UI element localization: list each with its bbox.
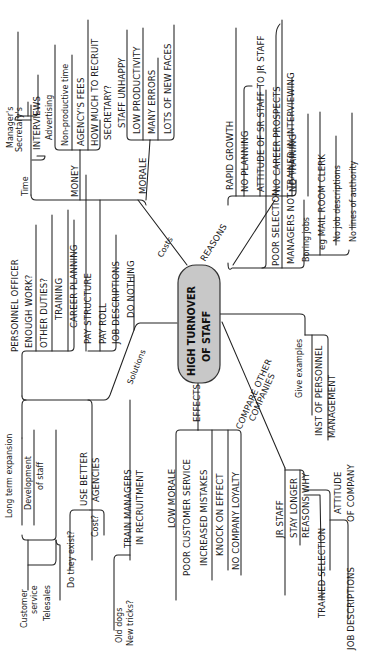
secretarys-label: Secretary's <box>15 107 24 152</box>
do-nothing-label: DO NOTHING <box>126 260 136 318</box>
trained-selection-label: TRAINED SELECTION <box>317 528 327 619</box>
career-planning-label: CAREER PLANNING <box>69 245 79 328</box>
telesales-label: Telesales <box>43 585 52 622</box>
low-morale-label: LOW MORALE <box>167 469 177 528</box>
pay-roll-label: PAY ROLL <box>98 303 108 344</box>
no-job-descriptions-label: No job descriptions <box>333 165 342 242</box>
no-career-prospects-label: NO CAREER PROSPECTS <box>272 86 282 192</box>
stay-longer-label: STAY LONGER <box>289 478 299 538</box>
effects-label: EFFECTS <box>192 384 202 422</box>
use-better-label: USE BETTER <box>79 452 89 506</box>
low-productivity-label: LOW PRODUCTIVITY <box>132 46 142 134</box>
attitude-sr-staff-label: ATTITUDE OF SR STAFF TO JR STAFF <box>256 35 266 192</box>
staff-unhappy-label: STAFF UNHAPPY <box>117 57 127 128</box>
customer-label: Customer <box>20 588 29 628</box>
job-descriptions-label: JOB DESCRIPTIONS <box>111 261 121 345</box>
no-company-loyalty-label: NO COMPANY LOYALTY <box>231 471 241 570</box>
center-node: HIGH TURNOVER OF STAFF <box>178 265 220 383</box>
development-label: Development <box>24 456 33 510</box>
of-company-label: OF COMPANY <box>346 464 356 522</box>
agencies-label: AGENCIES <box>91 458 101 502</box>
boring-jobs-label: Boring jobs <box>302 217 311 262</box>
non-productive-time-label: Non-productive time <box>61 64 70 146</box>
managers-not-trained-label: MANAGERS NOT TRAINED IN INTERVIEWING <box>286 72 296 264</box>
cost-question-label: Cost? <box>91 515 100 537</box>
jr-staff-label: JR STAFF <box>275 500 285 539</box>
other-duties-label: OTHER DUTIES? <box>39 278 49 348</box>
pay-structure-label: PAY STRUCTURE <box>83 273 93 344</box>
train-managers-label: TRAIN MANAGERS <box>123 469 133 549</box>
management-label: MANAGEMENT <box>327 374 337 438</box>
poor-customer-service-label: POOR CUSTOMER SERVICE <box>182 459 192 576</box>
interviews-label: INTERVIEWS <box>32 96 42 150</box>
rapid-growth-label: RAPID GROWTH <box>225 121 235 190</box>
old-dogs-label: Old dogs <box>115 608 124 643</box>
of-staff-label: of staff <box>36 462 45 490</box>
give-examples-label: Give examples <box>295 339 304 398</box>
center-node-capsule <box>178 265 220 383</box>
mind-map-canvas: HIGH TURNOVER OF STAFF Costs Time Manage… <box>0 0 367 651</box>
advertising-label: Advertising <box>45 95 54 140</box>
reasons-why-label: REASONS WHY <box>301 472 311 538</box>
do-they-exist-label: Do they exist? <box>67 531 76 588</box>
how-much-recruit-label: HOW MUCH TO RECRUIT <box>90 38 100 146</box>
inst-personnel-label: INST OF PERSONNEL <box>314 345 324 436</box>
no-lines-authority-label: No lines of authority <box>349 160 358 242</box>
increased-mistakes-label: INCREASED MISTAKES <box>199 469 209 566</box>
new-tricks-label: New tricks? <box>126 600 135 646</box>
enough-work-label: ENOUGH WORK? <box>24 275 34 348</box>
training-label: TRAINING <box>54 278 64 321</box>
new-faces-label: LOTS OF NEW FACES <box>163 43 173 134</box>
personnel-officer-label: PERSONNEL OFFICER <box>10 259 20 352</box>
managers-label: Manager's <box>6 107 15 148</box>
center-title-line2: OF STAFF <box>201 311 212 362</box>
in-recruitment-label: IN RECRUITMENT <box>135 469 145 545</box>
mail-room-clerk-label: eg MAIL ROOM CLERK <box>317 154 327 250</box>
attitude-label: ATTITUDE <box>333 472 343 514</box>
long-term-expansion-label: Long term expansion <box>5 434 14 518</box>
knock-on-effect-label: KNOCK ON EFFECT <box>215 473 225 556</box>
agency-fees-label: AGENCY'S FEES <box>76 78 86 146</box>
compare-job-descriptions-label: JOB DESCRIPTIONS <box>346 567 356 651</box>
many-errors-label: MANY ERRORS <box>147 70 157 134</box>
secretary-question-label: SECRETARY? <box>103 85 113 140</box>
money-label: MONEY <box>70 165 80 197</box>
no-planning-label: NO PLANNING <box>240 130 250 192</box>
poor-selection-label: POOR SELECTION <box>271 189 281 266</box>
morale-label: MORALE <box>138 158 148 195</box>
service-label: service <box>30 585 39 614</box>
time-label: Time <box>21 176 30 197</box>
center-title-line1: HIGH TURNOVER <box>186 286 197 376</box>
